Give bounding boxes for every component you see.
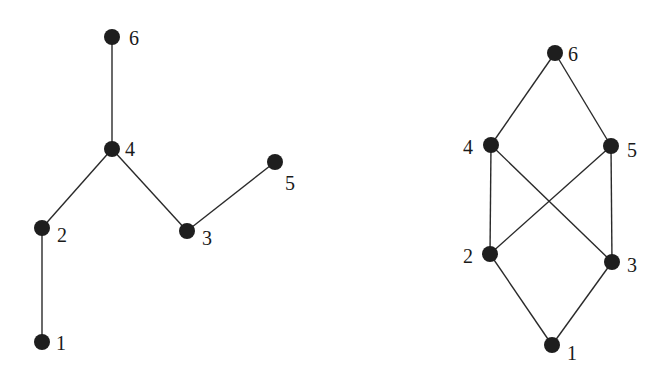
tree-node-1 (34, 334, 50, 350)
lattice-node-4 (483, 137, 499, 153)
lattice-edge-3-5 (611, 146, 612, 262)
lattice-node-label-5: 5 (627, 139, 637, 161)
tree-node-label-3: 3 (202, 227, 212, 249)
lattice-edge-3-4 (491, 145, 612, 262)
tree-edge-4-3 (112, 149, 187, 231)
tree-node-4 (104, 141, 120, 157)
tree-edges (42, 37, 275, 342)
lattice-node-label-1: 1 (567, 342, 577, 364)
tree-node-2 (34, 220, 50, 236)
tree-edge-2-4 (42, 149, 112, 228)
lattice-node-6 (547, 45, 563, 61)
lattice-node-label-6: 6 (568, 43, 578, 65)
tree-edge-3-5 (187, 162, 275, 231)
tree-node-6 (104, 29, 120, 45)
tree-node-label-1: 1 (56, 332, 66, 354)
lattice-node-3 (604, 254, 620, 270)
lattice-node-label-4: 4 (463, 136, 473, 158)
tree-node-label-2: 2 (57, 224, 67, 246)
lattice-node-1 (544, 337, 560, 353)
lattice-edge-1-3 (552, 262, 612, 345)
tree-node-label-4: 4 (125, 138, 135, 160)
lattice-edge-2-4 (490, 145, 491, 254)
tree-node-5 (267, 154, 283, 170)
graph-canvas: 123456 123456 (0, 0, 671, 377)
tree-nodes: 123456 (34, 27, 295, 354)
tree-node-3 (179, 223, 195, 239)
lattice-edge-1-2 (490, 254, 552, 345)
lattice-node-label-2: 2 (463, 245, 473, 267)
tree-node-label-6: 6 (129, 27, 139, 49)
lattice-node-label-3: 3 (627, 254, 637, 276)
lattice-edge-4-6 (491, 53, 555, 145)
lattice-node-2 (482, 246, 498, 262)
lattice-node-5 (603, 138, 619, 154)
tree-node-label-5: 5 (285, 172, 295, 194)
lattice-edge-5-6 (555, 53, 611, 146)
lattice-edges (490, 53, 612, 345)
